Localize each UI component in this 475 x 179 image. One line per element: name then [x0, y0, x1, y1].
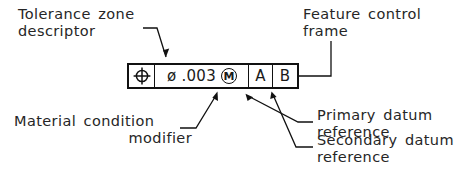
- secondary-datum-letter: B: [280, 69, 290, 84]
- secondary-datum-label: Secondary datum reference: [317, 132, 454, 166]
- primary-datum-letter: A: [255, 69, 265, 84]
- material-condition-label-line1: Material condition: [14, 113, 192, 130]
- feature-control-frame-label-line1: Feature control: [303, 6, 421, 23]
- tolerance-zone-label-line1: Tolerance zone: [18, 6, 134, 23]
- tolerance-zone-label-line2: descriptor: [18, 23, 134, 40]
- secondary-datum-cell: B: [273, 65, 297, 87]
- mmc-circled-m-icon: M: [221, 68, 237, 84]
- feature-control-frame: ø.003 M A B: [127, 63, 299, 89]
- secondary-datum-label-line1: Secondary datum: [317, 132, 454, 149]
- primary-datum-label-line1: Primary datum: [317, 107, 432, 124]
- material-condition-label-line2: modifier: [14, 130, 192, 147]
- feature-control-frame-label: Feature control frame: [303, 6, 421, 40]
- leader-tolerance-zone: [143, 28, 169, 57]
- feature-control-frame-label-line2: frame: [303, 23, 421, 40]
- primary-datum-cell: A: [249, 65, 273, 87]
- tolerance-value-cell: ø.003 M: [155, 65, 249, 87]
- secondary-datum-label-line2: reference: [317, 149, 454, 166]
- material-condition-label: Material condition modifier: [14, 113, 192, 147]
- position-symbol-icon: [132, 66, 152, 86]
- position-symbol-cell: [129, 65, 155, 87]
- gdt-callout-diagram: ø.003 M A B Tolerance zone descriptor Fe…: [0, 0, 475, 179]
- tolerance-value: .003: [181, 67, 216, 85]
- tolerance-zone-label: Tolerance zone descriptor: [18, 6, 134, 40]
- diameter-symbol-icon: ø: [167, 67, 176, 85]
